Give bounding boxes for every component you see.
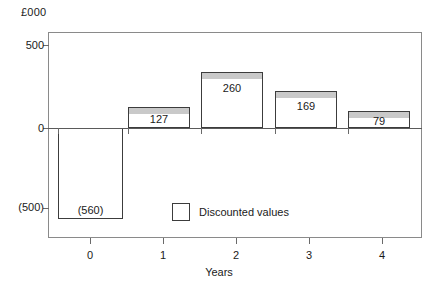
x-tick-stub-2: [201, 128, 202, 134]
bar-year-2-value: 260: [201, 82, 263, 94]
legend-swatch-discounted-values: [172, 203, 190, 221]
bar-year-2[interactable]: 260: [201, 72, 263, 128]
x-tick-label-2: 2: [216, 249, 256, 261]
bar-year-4[interactable]: 79: [348, 111, 410, 128]
y-tick-label-minus500: (500): [0, 201, 44, 213]
x-tick-mark-3: [309, 238, 310, 244]
x-tick-mark-0: [90, 238, 91, 244]
bar-year-3-cap: [275, 91, 337, 98]
x-tick-mark-2: [236, 238, 237, 244]
legend: Discounted values: [172, 203, 289, 221]
legend-label-discounted-values: Discounted values: [199, 206, 289, 218]
bar-year-2-cap: [201, 72, 263, 79]
x-tick-stub-4: [348, 128, 349, 134]
zero-baseline: [48, 128, 422, 129]
x-tick-label-4: 4: [362, 249, 402, 261]
x-tick-mark-1: [163, 238, 164, 244]
bar-year-1-value: 127: [128, 113, 190, 125]
x-tick-stub-1: [128, 128, 129, 134]
bar-year-2-body: [201, 72, 263, 128]
x-tick-stub-3: [275, 128, 276, 134]
bar-year-4-value: 79: [348, 115, 410, 127]
bar-chart: £000 500 0 (500) (560) 127 260: [0, 0, 438, 289]
y-tick-label-500: 500: [0, 39, 44, 51]
x-tick-label-0: 0: [70, 249, 110, 261]
x-axis-title: Years: [0, 266, 438, 278]
bar-year-0-value: (560): [58, 204, 123, 216]
bar-year-1[interactable]: 127: [128, 107, 190, 128]
x-tick-stub-0: [58, 128, 59, 134]
y-tick-label-group: 500 0 (500): [0, 0, 44, 289]
x-tick-mark-4: [382, 238, 383, 244]
y-tick-label-0: 0: [0, 122, 44, 134]
x-tick-label-1: 1: [143, 249, 183, 261]
bar-year-3[interactable]: 169: [275, 91, 337, 128]
bar-year-3-value: 169: [275, 100, 337, 112]
x-tick-label-3: 3: [289, 249, 329, 261]
bar-year-0[interactable]: (560): [58, 128, 123, 219]
